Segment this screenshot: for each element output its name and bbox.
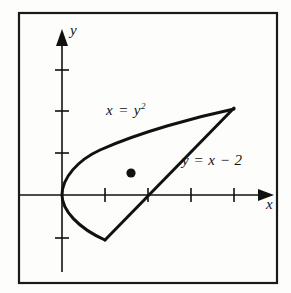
line-equation-label: y = x − 2	[182, 152, 243, 169]
curve-equation-rhs-exponent: 2	[141, 101, 146, 111]
curve-equation-lhs: x	[106, 102, 113, 118]
curve-equation-equals: =	[118, 102, 129, 118]
y-axis-arrowhead	[56, 29, 68, 46]
parabola-curve	[62, 109, 234, 240]
x-axis-label: x	[266, 196, 273, 213]
figure-frame	[19, 13, 277, 283]
region-point-marker	[126, 168, 135, 177]
math-figure: x=y2 y = x − 2 x y	[0, 0, 291, 293]
curve-equation-rhs-base: y	[134, 102, 141, 118]
curve-equation-label: x=y2	[106, 101, 145, 119]
line-segment	[105, 108, 234, 240]
graph-canvas	[0, 0, 291, 293]
y-axis-label: y	[70, 22, 77, 39]
